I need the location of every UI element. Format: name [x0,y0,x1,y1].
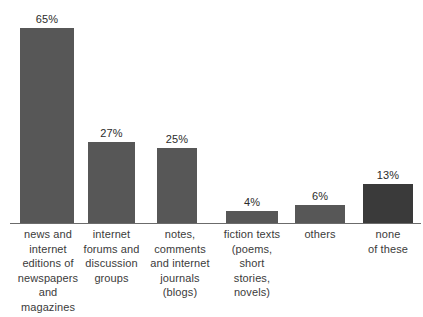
axis-label-line: notes, [145,227,215,242]
axis-label-line: discussion [79,256,144,271]
bar-column-none-of-these[interactable]: 13% [363,0,413,223]
axis-label-notes-comments-blogs: notes, comments and internet journals (b… [145,227,215,300]
axis-label-line: newspapers [8,271,88,286]
plot-area: 65% 27% 25% 4% 6% 13% [0,0,423,224]
axis-label-line: journals [145,271,215,286]
bar-value-label: 65% [36,13,58,26]
axis-label-line: stories, [214,271,290,286]
axis-label-line: and [8,285,88,300]
axis-label-line: editions of [8,256,88,271]
axis-label-news-internet-editions: news and internet editions of newspapers… [8,227,88,315]
bar-column-notes-comments-blogs[interactable]: 25% [157,0,197,223]
bar-value-label: 25% [166,133,188,146]
bar-column-others[interactable]: 6% [295,0,345,223]
axis-label-line: of these [358,242,418,257]
bar-rect[interactable] [226,211,278,223]
bar-rect[interactable] [363,184,413,223]
axis-label-line: news and [8,227,88,242]
axis-label-line: (poems, [214,242,290,257]
axis-label-none-of-these: none of these [358,227,418,256]
bar-value-label: 27% [100,127,122,140]
axis-label-fiction-texts: fiction texts (poems, short stories, nov… [214,227,290,300]
axis-label-line: fiction texts [214,227,290,242]
x-axis-line [10,223,421,224]
bar-column-fiction-texts[interactable]: 4% [226,0,278,223]
bar-rect[interactable] [295,205,345,223]
axis-label-line: forums and [79,242,144,257]
axis-label-line: magazines [8,300,88,315]
bar-value-label: 4% [244,196,260,209]
axis-label-line: internet [8,242,88,257]
bar-value-label: 6% [312,190,328,203]
axis-label-line: novels) [214,285,290,300]
bar-chart: 65% 27% 25% 4% 6% 13% news and interne [0,0,423,317]
x-axis-labels: news and internet editions of newspapers… [0,227,423,317]
axis-label-line: (blogs) [145,285,215,300]
bar-column-internet-forums[interactable]: 27% [88,0,135,223]
axis-label-line: and internet [145,256,215,271]
axis-label-internet-forums: internet forums and discussion groups [79,227,144,285]
bar-rect[interactable] [20,28,74,223]
axis-label-line: groups [79,271,144,286]
bar-value-label: 13% [377,169,399,182]
axis-label-line: short [214,256,290,271]
axis-label-others: others [292,227,348,242]
bar-column-news-internet-editions[interactable]: 65% [20,0,74,223]
bar-rect[interactable] [88,142,135,223]
axis-label-line: others [292,227,348,242]
axis-label-line: comments [145,242,215,257]
bar-rect[interactable] [157,148,197,223]
axis-label-line: internet [79,227,144,242]
axis-label-line: none [358,227,418,242]
